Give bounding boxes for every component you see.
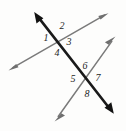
angle-label-6: 6 bbox=[80, 61, 90, 72]
transversal-line bbox=[34, 12, 114, 114]
angle-label-1: 1 bbox=[41, 33, 51, 44]
geometry-figure: 1 2 3 4 5 6 7 8 bbox=[0, 0, 126, 131]
angle-label-7: 7 bbox=[93, 73, 103, 84]
angle-label-3: 3 bbox=[64, 37, 74, 48]
angle-label-4: 4 bbox=[52, 48, 62, 59]
angle-label-2: 2 bbox=[57, 21, 67, 32]
angle-label-8: 8 bbox=[82, 89, 92, 100]
angle-label-5: 5 bbox=[68, 74, 78, 85]
